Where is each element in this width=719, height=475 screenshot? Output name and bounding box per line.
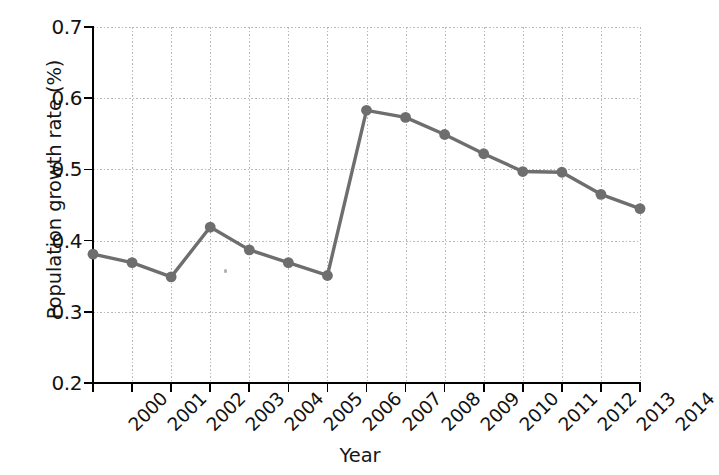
data-point-marker: 2002: 0.349 bbox=[166, 272, 177, 283]
data-point-marker: 2007: 0.583 bbox=[361, 105, 372, 116]
x-axis-tick-label: 2011 bbox=[554, 388, 601, 435]
data-point-marker: 2010: 0.522 bbox=[478, 148, 489, 159]
x-axis-tick-label: 2012 bbox=[593, 388, 640, 435]
x-axis-tick-label: 2001 bbox=[163, 388, 210, 435]
y-axis-tick-label: 0.6 bbox=[24, 86, 82, 110]
x-axis-tick-label: 2008 bbox=[437, 388, 484, 435]
y-axis-tick-label: 0.2 bbox=[24, 371, 82, 395]
data-point-marker: 2014: 0.445 bbox=[635, 203, 646, 214]
data-point-marker: 2009: 0.549 bbox=[439, 129, 450, 140]
x-axis-tick-labels: 2000200120022003200420052006200720082009… bbox=[93, 388, 653, 448]
x-axis-tick-label: 2002 bbox=[202, 388, 249, 435]
data-point-marker: 2008: 0.573 bbox=[400, 112, 411, 123]
x-axis-tick-label: 2007 bbox=[398, 388, 445, 435]
plot-area: 2000: 0.3812001: 0.3692002: 0.3492003: 0… bbox=[93, 27, 640, 383]
x-axis-tick-label: 2005 bbox=[320, 388, 367, 435]
x-axis-tick-label: 2000 bbox=[124, 388, 171, 435]
y-axis-tick-labels: 0.70.60.50.40.30.2 bbox=[10, 0, 82, 475]
data-point-marker: 2003: 0.419 bbox=[205, 222, 216, 233]
y-axis-tick-label: 0.3 bbox=[24, 300, 82, 324]
data-point-marker: 2012: 0.496 bbox=[556, 167, 567, 178]
x-axis-tick-label: 2003 bbox=[242, 388, 289, 435]
data-point-marker: 2011: 0.497 bbox=[517, 166, 528, 177]
y-axis-tick-label: 0.5 bbox=[24, 157, 82, 181]
scan-artifact bbox=[224, 269, 227, 273]
data-point-marker: 2001: 0.369 bbox=[127, 257, 138, 268]
x-axis-tick-label: 2013 bbox=[632, 388, 679, 435]
series-line bbox=[93, 110, 640, 277]
x-axis-tick-label: 2009 bbox=[476, 388, 523, 435]
data-point-marker: 2000: 0.381 bbox=[88, 249, 99, 260]
x-axis-title: Year bbox=[0, 444, 719, 467]
y-axis-tick-label: 0.4 bbox=[24, 229, 82, 253]
x-axis-tick-label: 2004 bbox=[281, 388, 328, 435]
data-point-marker: 2013: 0.465 bbox=[596, 189, 607, 200]
data-series-line: 2000: 0.3812001: 0.3692002: 0.3492003: 0… bbox=[93, 27, 640, 383]
x-axis-tick-label: 2014 bbox=[671, 388, 718, 435]
x-axis-tick-label: 2010 bbox=[515, 388, 562, 435]
data-point-marker: 2006: 0.351 bbox=[322, 270, 333, 281]
y-axis-tick-label: 0.7 bbox=[24, 15, 82, 39]
data-point-marker: 2004: 0.387 bbox=[244, 244, 255, 255]
x-axis-tick-label: 2006 bbox=[359, 388, 406, 435]
data-point-marker: 2005: 0.369 bbox=[283, 257, 294, 268]
